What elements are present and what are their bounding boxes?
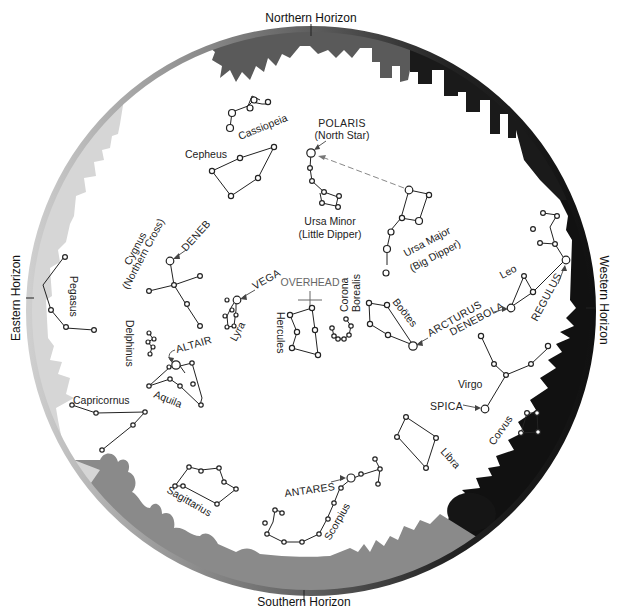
ursa-minor-label: Ursa Minor bbox=[304, 215, 356, 227]
northern-horizon-label: Northern Horizon bbox=[265, 11, 356, 25]
overhead-label: OVERHEAD bbox=[281, 276, 340, 288]
ursa-minor-sublabel: (Little Dipper) bbox=[298, 228, 361, 240]
polaris-star bbox=[307, 149, 315, 157]
star-chart: Northern Horizon Southern Horizon Easter… bbox=[0, 0, 619, 614]
vega-star bbox=[233, 296, 241, 304]
altair-star bbox=[172, 361, 180, 369]
hercules-label: Hercules bbox=[275, 312, 287, 353]
capricornus-label: Capricornus bbox=[73, 394, 130, 406]
western-horizon-label: Western Horizon bbox=[597, 255, 611, 344]
corona-label: Corona bbox=[338, 277, 350, 312]
polaris-sublabel: (North Star) bbox=[315, 129, 370, 141]
cepheus-label: Cepheus bbox=[185, 148, 227, 160]
regulus-star bbox=[562, 256, 570, 264]
antares-star bbox=[347, 474, 355, 482]
eastern-horizon-label: Eastern Horizon bbox=[9, 255, 23, 341]
pegasus-label: Pegasus bbox=[68, 276, 80, 317]
southern-horizon-label: Southern Horizon bbox=[257, 595, 350, 609]
arcturus-star bbox=[409, 342, 417, 350]
denebola-star bbox=[507, 304, 515, 312]
spica-star bbox=[481, 405, 489, 413]
spica-label: SPICA bbox=[430, 400, 463, 412]
borealis-label: Borealis bbox=[350, 274, 362, 312]
delphinus-label: Delphinus bbox=[124, 320, 136, 367]
polaris-label: POLARIS bbox=[318, 117, 366, 129]
deneb-star bbox=[166, 257, 174, 265]
virgo-label: Virgo bbox=[458, 378, 482, 390]
